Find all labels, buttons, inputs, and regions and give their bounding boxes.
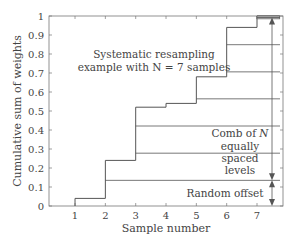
x-tick-label: 1 [72,210,78,221]
y-axis-label: Cumulative sum of weights [11,35,24,187]
offset-arrow-head-up [269,180,275,187]
annotation-comb-line2: equally [221,140,260,152]
x-tick-label: 5 [193,210,199,221]
annotation-comb-line1: Comb of N [211,127,269,139]
systematic-resampling-chart: 00.10.20.30.40.50.60.70.80.911234567 Sam… [0,0,299,239]
y-tick-label: 0 [38,201,44,212]
y-tick-label: 0.2 [28,163,44,174]
y-tick-label: 0.6 [28,87,44,98]
y-tick-label: 0.1 [28,182,44,193]
x-tick-label: 3 [133,210,139,221]
y-tick-label: 0.4 [28,125,44,136]
annotation-comb-line3: spaced [221,152,258,164]
annotation-title-line1: Systematic resampling [93,48,215,60]
x-tick-label: 4 [163,210,169,221]
y-tick-label: 0.3 [28,144,44,155]
y-tick-label: 0.8 [28,49,44,60]
x-axis-label: Sample number [122,222,211,235]
x-tick-label: 6 [223,210,229,221]
annotation-comb-line4: levels [225,164,255,176]
y-tick-label: 0.7 [28,68,44,79]
x-tick-label: 2 [102,210,108,221]
y-tick-label: 0.5 [28,106,44,117]
y-tick-label: 0.9 [28,30,44,41]
annotation-title-line2: example with N = 7 samples [78,61,231,73]
y-tick-label: 1 [38,11,44,22]
annotation-random-offset: Random offset [186,187,264,199]
x-tick-label: 7 [254,210,260,221]
offset-arrow-head-down [269,199,275,206]
comb-arrow-head-down [269,173,275,180]
